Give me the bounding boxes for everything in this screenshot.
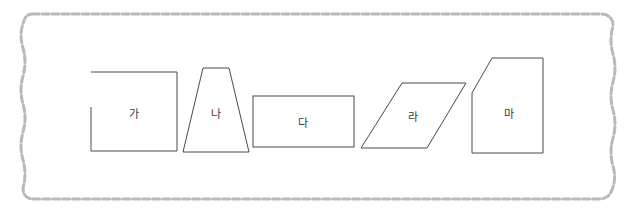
- figure-canvas: [0, 0, 630, 212]
- label-ga: 가: [129, 105, 139, 121]
- label-ma: 마: [504, 105, 514, 121]
- label-na: 나: [211, 105, 221, 121]
- label-ra: 라: [408, 108, 418, 124]
- label-da: 다: [298, 114, 308, 130]
